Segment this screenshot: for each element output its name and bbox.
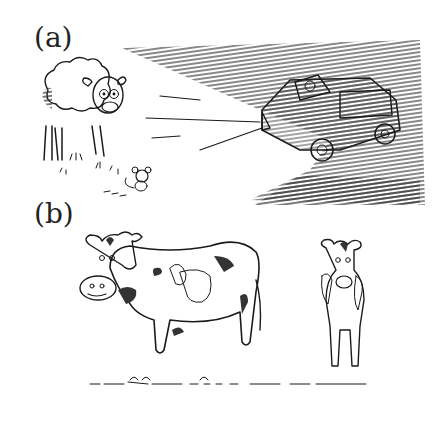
grass-a — [60, 153, 126, 196]
sheep — [42, 57, 126, 160]
cow-side — [80, 232, 261, 353]
mouse — [125, 167, 151, 191]
grass-b — [90, 377, 366, 384]
cow-front — [321, 240, 364, 367]
headlight-beams — [146, 96, 262, 150]
illustration — [0, 0, 432, 424]
